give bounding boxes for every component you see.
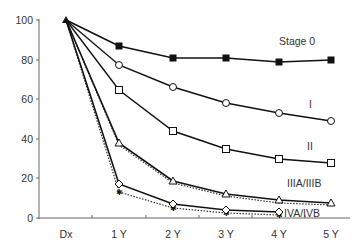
y-tick-label: 0 xyxy=(27,212,33,224)
y-tick-label: 60 xyxy=(21,93,33,105)
label-stage1: I xyxy=(309,98,312,110)
y-tick-label: 100 xyxy=(15,14,33,26)
x-tick-label: 4 Y xyxy=(271,228,287,240)
y-axis: 100 80 60 40 20 0 xyxy=(15,14,39,224)
x-tick-label: 5 Y xyxy=(323,228,339,240)
y-tick-label: 80 xyxy=(21,54,33,66)
svg-text:✱: ✱ xyxy=(116,188,123,197)
label-stage4: IVA/IVB xyxy=(284,207,320,219)
y-tick-label: 20 xyxy=(21,172,33,184)
series-stage4a xyxy=(66,20,283,216)
y-tick-label: 40 xyxy=(21,133,33,145)
x-tick-label: 2 Y xyxy=(165,228,181,240)
x-tick-label: 3 Y xyxy=(218,228,234,240)
survival-line-chart: 100 80 60 40 20 0 Dx 1 Y 2 Y 3 Y 4 Y 5 Y xyxy=(0,0,354,249)
label-stage2: II xyxy=(307,140,313,152)
label-stage0: Stage 0 xyxy=(279,35,315,47)
start-marker xyxy=(62,16,70,23)
x-tick-label: 1 Y xyxy=(111,228,127,240)
label-stage3: IIIA/IIIB xyxy=(287,177,321,189)
x-tick-label: Dx xyxy=(60,228,74,240)
